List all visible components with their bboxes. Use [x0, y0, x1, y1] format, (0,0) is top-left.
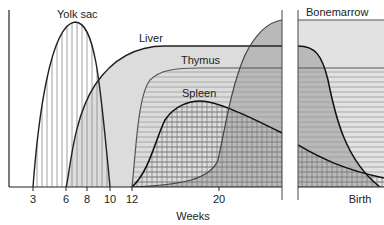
label-spleen: Spleen — [182, 87, 216, 99]
right-panel — [298, 20, 384, 187]
tick-label-10: 10 — [104, 193, 116, 205]
tick-label-3: 3 — [30, 193, 36, 205]
x-ticks — [33, 187, 219, 191]
x-axis-title: Weeks — [176, 210, 210, 222]
label-liver: Liver — [139, 32, 163, 44]
label-yolk-sac: Yolk sac — [57, 8, 98, 20]
label-thymus: Thymus — [181, 54, 221, 66]
tick-label-birth: Birth — [349, 193, 372, 205]
tick-label-8: 8 — [84, 193, 90, 205]
tick-label-12: 12 — [126, 193, 138, 205]
left-panel — [33, 20, 282, 187]
tick-label-20: 20 — [213, 193, 225, 205]
label-bonemarrow: Bonemarrow — [306, 6, 368, 18]
yolk-sac-area — [33, 22, 110, 187]
hematopoiesis-chart: 3 6 8 10 12 20 Birth Weeks Yolk sac Live… — [0, 0, 384, 225]
tick-label-6: 6 — [63, 193, 69, 205]
